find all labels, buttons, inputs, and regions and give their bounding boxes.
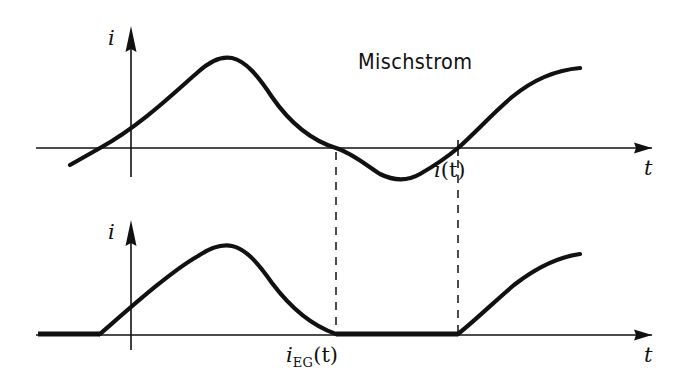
lower-x-axis-arrowhead	[634, 330, 652, 341]
upper-y-axis-arrowhead	[126, 26, 137, 52]
lower-y-axis-label: i	[108, 222, 115, 243]
lower-curve-label: iEG(t)	[286, 345, 338, 369]
waveform-figure: i t Mischstrom i(t) i t iEG(t)	[0, 0, 699, 389]
lower-panel-graphics	[36, 220, 652, 350]
lower-y-axis-arrowhead	[126, 220, 137, 246]
upper-curve-label: i(t)	[434, 160, 466, 181]
lower-rectified-hump	[100, 245, 336, 334]
upper-y-axis-label: i	[108, 28, 115, 49]
upper-curve-label-arg: (t)	[441, 158, 466, 182]
lower-curve-label-subscript: EG	[293, 355, 313, 370]
lower-x-axis-label: t	[644, 345, 652, 366]
lower-curve-label-arg: (t)	[313, 343, 338, 367]
upper-current-curve	[70, 58, 580, 180]
mischstrom-annotation: Mischstrom	[358, 52, 472, 73]
upper-x-axis-arrowhead	[634, 143, 652, 154]
lower-curve-label-symbol: i	[286, 343, 293, 367]
upper-panel-graphics	[36, 26, 652, 179]
upper-x-axis-label: t	[644, 158, 652, 179]
lower-rectified-rise	[458, 254, 580, 334]
upper-curve-label-symbol: i	[434, 158, 441, 182]
